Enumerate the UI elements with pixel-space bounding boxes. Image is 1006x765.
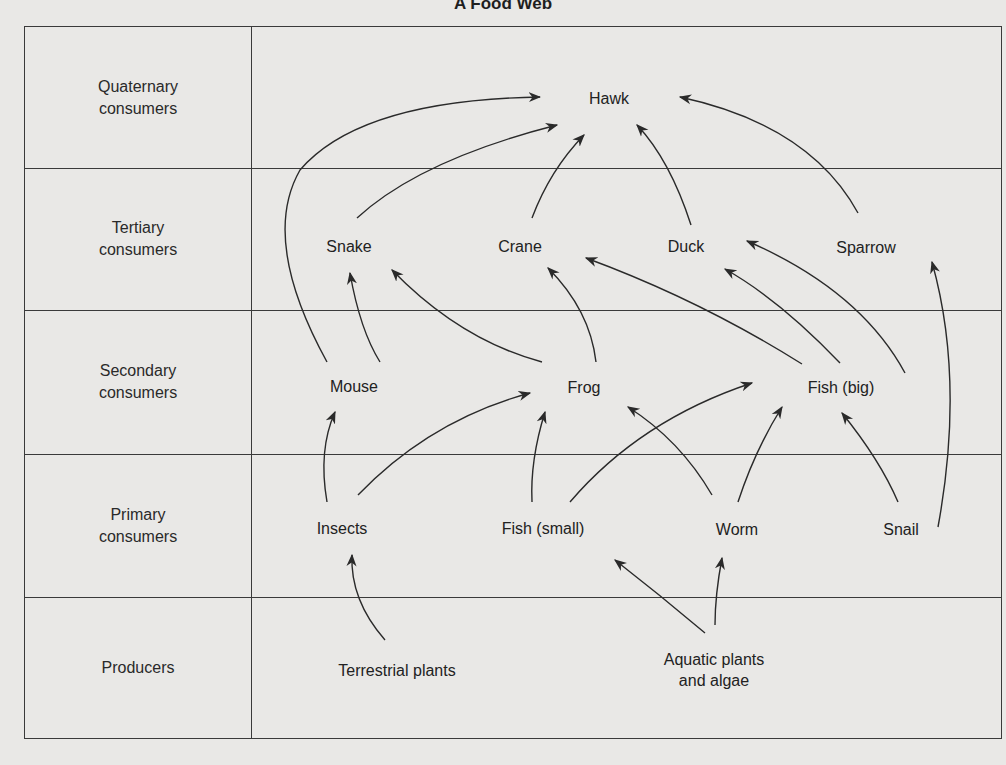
arrow-frog-snake — [392, 270, 542, 362]
arrow-frog-crane — [548, 268, 596, 362]
node-worm: Worm — [716, 519, 758, 540]
node-aquatic-plants: Aquatic plants and algae — [664, 649, 765, 691]
arrow-fishbig-crane — [586, 258, 802, 364]
arrow-terrestrial-insects — [352, 555, 385, 640]
arrow-mouse-snake — [350, 273, 380, 362]
arrow-snail-fishbig — [842, 413, 898, 502]
node-crane: Crane — [498, 236, 542, 257]
arrow-insects-frog — [358, 393, 530, 495]
arrow-insects-mouse — [324, 412, 335, 502]
node-fish-small: Fish (small) — [502, 518, 585, 539]
arrow-mouse-hawk — [285, 97, 540, 362]
node-duck: Duck — [668, 236, 704, 257]
node-hawk: Hawk — [589, 88, 629, 109]
node-mouse: Mouse — [330, 376, 378, 397]
node-snake: Snake — [326, 236, 371, 257]
arrow-worm-fishbig — [738, 407, 782, 502]
node-insects: Insects — [317, 518, 368, 539]
arrow-crane-hawk — [532, 135, 584, 218]
node-aquatic-line: and algae — [664, 670, 765, 691]
arrow-fishbig-sparrow — [747, 241, 905, 373]
node-terrestrial-plants: Terrestrial plants — [338, 660, 455, 681]
node-sparrow: Sparrow — [836, 237, 896, 258]
arrow-aquatic-fishsmall — [615, 560, 705, 633]
arrow-fishsmall-frog — [532, 412, 545, 502]
node-snail: Snail — [883, 519, 919, 540]
node-aquatic-line: Aquatic plants — [664, 649, 765, 670]
arrow-snake-hawk — [357, 125, 557, 218]
node-frog: Frog — [568, 377, 601, 398]
arrow-fishsmall-fishbig — [570, 383, 752, 502]
arrow-duck-hawk — [637, 125, 691, 225]
arrow-sparrow-hawk — [680, 97, 858, 213]
arrow-aquatic-worm — [715, 558, 722, 625]
node-fish-big: Fish (big) — [808, 377, 875, 398]
arrow-snail-sparrow — [932, 262, 950, 527]
arrow-worm-frog — [628, 407, 712, 495]
